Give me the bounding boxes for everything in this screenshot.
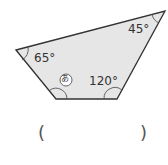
answer-close-paren: ) [140,124,147,142]
angle-label-top-right: 45° [128,23,149,35]
angle-label-bottom-right: 120° [89,75,118,87]
answer-open-paren: ( [38,124,45,142]
unknown-angle-label: あ [61,75,69,83]
angle-label-left: 65° [34,52,55,64]
